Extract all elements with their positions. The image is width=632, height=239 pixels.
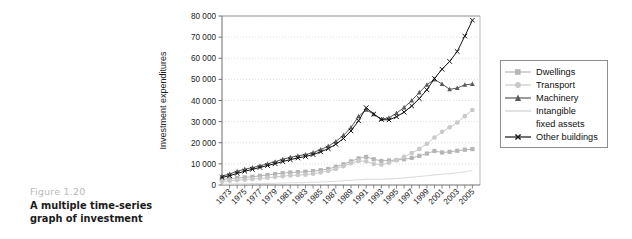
data-point: [463, 148, 467, 152]
x-tick-label: 1999: [412, 187, 432, 207]
data-point: [220, 179, 225, 184]
data-point: [455, 120, 460, 125]
data-point: [425, 142, 430, 147]
legend-marker-machinery: [504, 92, 532, 104]
legend-marker-dwellings: [504, 66, 532, 78]
data-point: [432, 149, 436, 153]
series-other-buildings: [220, 18, 475, 180]
data-point: [372, 157, 376, 161]
data-point: [424, 82, 429, 87]
data-point: [311, 172, 316, 177]
data-point: [410, 156, 414, 160]
data-point: [409, 151, 414, 156]
data-point: [402, 155, 407, 160]
legend-label-machinery: Machinery: [536, 93, 578, 103]
legend-label-other-buildings: Other buildings: [536, 132, 598, 142]
legend-item-intangible[interactable]: Intangible: [504, 104, 603, 117]
data-point: [455, 149, 459, 153]
x-tick-label: 1987: [320, 187, 340, 207]
legend-item-machinery[interactable]: Machinery: [504, 91, 603, 104]
x-tick-label: 1983: [290, 187, 310, 207]
data-point: [440, 81, 445, 86]
data-point: [242, 177, 247, 182]
legend-item-dwellings[interactable]: Dwellings: [504, 65, 603, 78]
data-point: [440, 67, 445, 72]
data-point: [440, 129, 445, 134]
data-point: [394, 158, 399, 163]
data-point: [288, 173, 293, 178]
data-point: [318, 170, 323, 175]
series-transport: [220, 108, 475, 184]
legend-marker-other-buildings: [504, 131, 532, 143]
data-point: [273, 175, 278, 180]
data-point: [409, 104, 414, 109]
legend-label-intangible-cont: fixed assets: [536, 119, 585, 129]
data-point: [341, 164, 346, 169]
y-tick-label: 70 000: [191, 33, 216, 42]
data-point: [371, 162, 376, 167]
y-tick-label: 80 000: [191, 12, 216, 21]
data-point: [417, 147, 422, 152]
series-line: [222, 110, 472, 181]
y-tick-label: 50 000: [191, 75, 216, 84]
data-point: [432, 135, 437, 140]
data-point: [326, 169, 331, 174]
x-tick-label: 2001: [427, 187, 447, 207]
x-tick-label: 2005: [457, 187, 477, 207]
y-tick-label: 40 000: [191, 97, 216, 106]
x-tick-label: 1997: [396, 187, 416, 207]
data-point: [402, 110, 407, 115]
y-tick-label: 0: [211, 181, 216, 190]
x-tick-label: 1977: [245, 187, 265, 207]
y-tick-label: 60 000: [191, 54, 216, 63]
data-point: [356, 118, 361, 123]
legend-label-intangible: Intangible: [536, 106, 576, 116]
x-tick-label: 1973: [214, 187, 234, 207]
data-point: [425, 87, 430, 92]
data-point: [379, 162, 384, 167]
data-point: [364, 155, 368, 159]
series-line: [222, 79, 472, 176]
x-tick-label: 1989: [336, 187, 356, 207]
data-point: [280, 174, 285, 179]
data-point: [296, 173, 301, 178]
data-point: [364, 159, 369, 164]
figure-container: Figure 1.20 A multiple time-series graph…: [0, 0, 632, 239]
data-point: [227, 178, 232, 183]
y-tick-label: 30 000: [191, 118, 216, 127]
data-point: [387, 161, 392, 166]
data-point: [463, 114, 468, 119]
x-tick-label: 1993: [366, 187, 386, 207]
legend-item-other-buildings[interactable]: Other buildings: [504, 130, 603, 143]
legend-item-transport[interactable]: Transport: [504, 78, 603, 91]
chart-legend: Dwellings Transport Machinery Intangible…: [500, 60, 608, 148]
data-point: [455, 49, 460, 54]
data-point: [448, 150, 452, 154]
data-point: [334, 167, 339, 172]
x-tick-label: 1995: [381, 187, 401, 207]
legend-item-intangible-line2: fixed assets: [504, 117, 603, 130]
data-point: [303, 172, 308, 177]
data-point: [250, 177, 255, 182]
data-point: [463, 34, 468, 39]
legend-marker-transport: [504, 79, 532, 91]
data-point: [265, 176, 270, 181]
x-tick-label: 1979: [260, 187, 280, 207]
data-point: [349, 161, 354, 166]
data-point: [417, 96, 422, 101]
data-point: [235, 178, 240, 183]
data-point: [470, 147, 474, 151]
x-tick-label: 1981: [275, 187, 295, 207]
y-tick-label: 20 000: [191, 139, 216, 148]
data-point: [258, 176, 263, 181]
data-point: [379, 159, 383, 163]
x-tick-label: 1991: [351, 187, 371, 207]
data-point: [440, 150, 444, 154]
series-line: [222, 20, 472, 177]
legend-label-dwellings: Dwellings: [536, 67, 575, 77]
time-series-chart: 010 00020 00030 00040 00050 00060 00070 …: [150, 0, 495, 239]
legend-label-transport: Transport: [536, 80, 575, 90]
x-tick-label: 1975: [229, 187, 249, 207]
data-point: [425, 151, 429, 155]
x-tick-label: 1985: [305, 187, 325, 207]
